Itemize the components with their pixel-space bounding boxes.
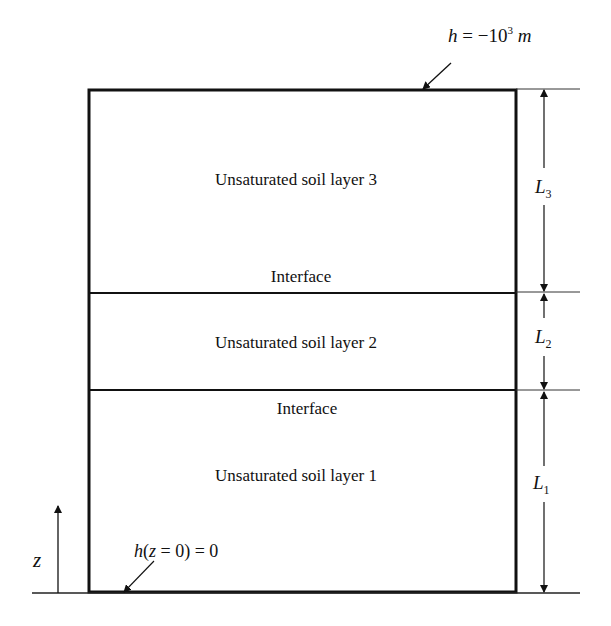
soil-profile-diagram [0, 0, 611, 626]
top-boundary-pointer [423, 63, 451, 89]
bottom-boundary-condition: h(z = 0) = 0 [134, 541, 218, 562]
top-boundary-unit: m [513, 25, 531, 46]
dimension-label-l3: L3 [535, 176, 552, 202]
interface-lower-label: Interface [277, 399, 337, 419]
dimension-label-l1: L1 [533, 472, 550, 498]
dimension-label-l2: L2 [535, 326, 552, 352]
layer-3-label: Unsaturated soil layer 3 [215, 170, 377, 190]
bottom-boundary-pointer [124, 561, 154, 592]
z-axis-label: z [33, 548, 41, 573]
top-boundary-var: h [448, 25, 458, 46]
interface-upper-label: Interface [271, 267, 331, 287]
top-boundary-eq: = −10 [458, 25, 508, 46]
top-boundary-condition: h = −103 m [448, 24, 531, 47]
layer-1-label: Unsaturated soil layer 1 [215, 466, 377, 486]
layer-2-label: Unsaturated soil layer 2 [215, 333, 377, 353]
